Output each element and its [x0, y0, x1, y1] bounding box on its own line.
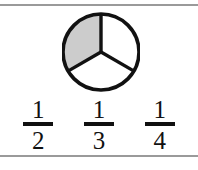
answer-options-row: 1 2 1 3 1 4 [0, 98, 198, 152]
option-one-half-numerator: 1 [32, 98, 45, 120]
bottom-divider [0, 155, 198, 157]
option-one-half[interactable]: 1 2 [14, 98, 62, 151]
option-one-fourth-fraction-bar [145, 122, 175, 126]
option-one-half-fraction-bar [23, 122, 53, 126]
pie-figure [62, 12, 140, 92]
option-one-third[interactable]: 1 3 [75, 98, 123, 151]
top-divider [0, 4, 198, 6]
option-one-fourth-numerator: 1 [153, 98, 166, 120]
worksheet-page: 1 2 1 3 1 4 [0, 0, 198, 170]
option-one-fourth[interactable]: 1 4 [136, 98, 184, 151]
option-one-third-numerator: 1 [93, 98, 106, 120]
option-one-half-denominator: 2 [32, 129, 45, 151]
option-one-third-fraction-bar [84, 122, 114, 126]
option-one-fourth-denominator: 4 [153, 129, 166, 151]
option-one-third-denominator: 3 [93, 129, 106, 151]
